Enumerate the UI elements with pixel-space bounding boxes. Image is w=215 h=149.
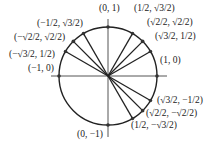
- point-dot: [106, 25, 110, 29]
- point-dot: [64, 50, 68, 54]
- point-dot: [149, 99, 153, 103]
- point-label: (√2/2, √2/2): [147, 18, 193, 28]
- point-label: (1/2, √3/2): [134, 4, 175, 14]
- point-label: (√3/2, −1/2): [157, 96, 203, 106]
- point-dot: [149, 50, 153, 54]
- point-label: (−√2/2, √2/2): [14, 33, 65, 43]
- point-dot: [82, 32, 86, 36]
- point-dot: [141, 109, 145, 113]
- point-label: (0, 1): [99, 4, 120, 14]
- point-label: (−1/2, √3/2): [37, 19, 83, 29]
- point-label: (−√3/2, 1/2): [9, 50, 55, 60]
- point-label: (1/2, −√3/2): [131, 121, 177, 131]
- point-dot: [106, 123, 110, 127]
- point-dot: [72, 40, 76, 44]
- point-label: (√3/2, 1/2): [155, 32, 196, 42]
- point-dot: [155, 74, 159, 78]
- point-dot: [141, 40, 145, 44]
- point-label: (1, 0): [160, 56, 181, 66]
- point-dot: [131, 32, 135, 36]
- point-label: (0, −1): [77, 130, 103, 140]
- point-dot: [57, 74, 61, 78]
- point-label: (−1, 0): [28, 64, 54, 74]
- point-label: (√2/2, −√2/2): [146, 109, 197, 119]
